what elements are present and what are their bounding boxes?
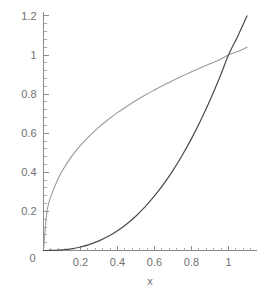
y-tick-label: 0.8 — [21, 88, 36, 100]
x-axis-tick-labels: 00.20.40.60.81 — [29, 252, 231, 268]
plot-canvas: 00.20.40.60.81 0.20.40.60.811.2 x — [0, 0, 261, 305]
y-tick-label: 1.2 — [21, 10, 36, 22]
x-tick-label: 0.8 — [184, 256, 199, 268]
chart-figure: 00.20.40.60.81 0.20.40.60.811.2 x — [0, 0, 261, 305]
x-tick-label: 0 — [29, 252, 35, 264]
x-axis-title: x — [147, 275, 153, 287]
y-tick-label: 0.2 — [21, 205, 36, 217]
curve-lower-curve — [44, 16, 248, 251]
curve-upper-curve — [44, 47, 248, 250]
x-tick-label: 0.4 — [110, 256, 125, 268]
x-tick-label: 0.6 — [147, 256, 162, 268]
x-tick-label: 1 — [225, 256, 231, 268]
x-tick-label: 0.2 — [73, 256, 88, 268]
y-tick-label: 1 — [30, 49, 36, 61]
data-curves — [44, 16, 248, 251]
y-axis-tick-labels: 0.20.40.60.811.2 — [21, 10, 36, 218]
y-tick-label: 0.6 — [21, 127, 36, 139]
y-tick-label: 0.4 — [21, 166, 36, 178]
